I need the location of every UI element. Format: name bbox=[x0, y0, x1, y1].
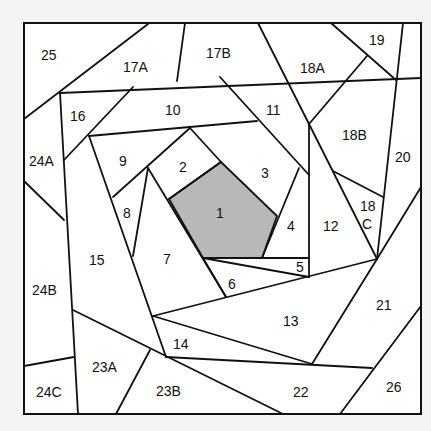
label-4: 4 bbox=[287, 218, 295, 234]
label-11: 11 bbox=[266, 102, 281, 118]
label-22: 22 bbox=[293, 384, 309, 400]
label-9: 9 bbox=[119, 153, 127, 169]
label-23b: 23B bbox=[156, 383, 181, 399]
label-24a: 24A bbox=[29, 153, 55, 169]
label-19: 19 bbox=[369, 32, 385, 48]
label-17b: 17B bbox=[206, 45, 231, 61]
label-24b: 24B bbox=[32, 282, 57, 298]
label-13: 13 bbox=[283, 313, 299, 329]
label-18c-top: 18 bbox=[360, 198, 376, 214]
label-20: 20 bbox=[395, 149, 411, 165]
label-16: 16 bbox=[70, 108, 86, 124]
label-1: 1 bbox=[216, 205, 224, 221]
label-10: 10 bbox=[165, 102, 181, 118]
label-24c: 24C bbox=[36, 384, 62, 400]
label-3: 3 bbox=[261, 165, 269, 181]
label-26: 26 bbox=[386, 379, 402, 395]
label-21: 21 bbox=[376, 297, 392, 313]
label-5: 5 bbox=[296, 259, 304, 275]
label-2: 2 bbox=[179, 159, 187, 175]
pattern-diagram: 25 17A 17B 18A 19 16 10 11 18B 20 24A 9 … bbox=[0, 0, 431, 431]
label-8: 8 bbox=[123, 205, 131, 221]
label-18a: 18A bbox=[300, 60, 326, 76]
label-7: 7 bbox=[163, 251, 171, 267]
label-17a: 17A bbox=[123, 59, 149, 75]
label-23a: 23A bbox=[92, 359, 118, 375]
label-6: 6 bbox=[228, 276, 236, 292]
label-18b: 18B bbox=[342, 127, 367, 143]
label-18c-bottom: C bbox=[362, 216, 372, 232]
label-14: 14 bbox=[173, 336, 189, 352]
label-25: 25 bbox=[41, 47, 57, 63]
label-15: 15 bbox=[89, 252, 105, 268]
label-12: 12 bbox=[323, 218, 339, 234]
